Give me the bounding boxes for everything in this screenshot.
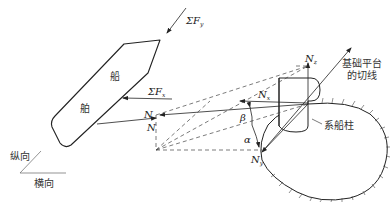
sum-fy-label: ΣFy — [185, 15, 204, 28]
mooring-force-diagram: 船 舶 ΣFy ΣFx N 纵向 横向 — [0, 0, 390, 202]
tangent-label-line2: 的切线 — [347, 69, 377, 81]
alpha-label: α — [244, 134, 251, 145]
sum-fy-arrow — [167, 8, 186, 33]
diagram-svg: 船 舶 ΣFy ΣFx N 纵向 横向 — [0, 0, 390, 202]
angle-arc-beta — [250, 107, 252, 125]
ship-hull — [51, 40, 160, 147]
ship-label-2: 舶 — [80, 102, 90, 114]
longitudinal-label: 纵向 — [10, 150, 30, 162]
beta-label: β — [239, 112, 246, 123]
nz-label: Nz — [304, 53, 318, 65]
ship-label-1: 船 — [110, 70, 120, 82]
tangent-label-line1: 基础平台 — [342, 57, 382, 69]
bollard-label: 系船柱 — [324, 119, 354, 131]
n-label-left: N — [146, 122, 157, 133]
angle-arc-alpha — [252, 125, 259, 147]
nx-label: Nx — [257, 89, 271, 101]
n-label-right: N — [143, 109, 154, 120]
bollard-leader — [312, 119, 322, 124]
sum-fx-label: ΣFx — [147, 86, 166, 98]
sum-fx-arrow — [123, 98, 172, 99]
transverse-label: 横向 — [34, 177, 54, 189]
